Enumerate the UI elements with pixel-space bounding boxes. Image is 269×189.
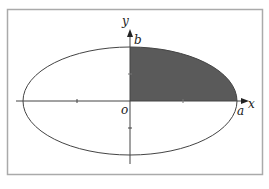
y-axis-label: y [121,14,129,28]
shaded-quadrant [130,47,237,101]
a-label: a [237,104,244,118]
b-label: b [134,33,142,47]
origin-label: o [121,103,128,117]
x-axis-label: x [248,97,255,111]
ellipse-diagram: y b x a o [0,0,269,189]
y-axis-arrow-icon [127,29,133,37]
